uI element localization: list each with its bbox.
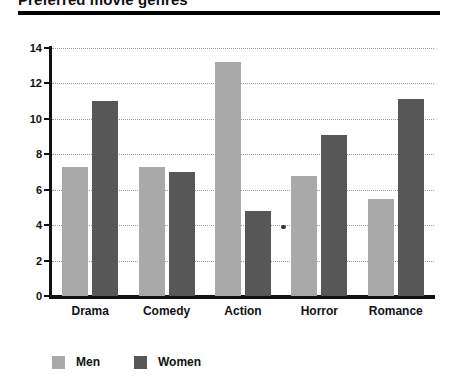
- bar-drama-men: [62, 167, 88, 296]
- plot-area: [52, 48, 434, 296]
- legend-swatch-women: [134, 356, 147, 369]
- bar-group-comedy: [139, 48, 195, 296]
- y-tick-label-6: 6: [16, 184, 42, 196]
- legend-label-men: Men: [76, 355, 100, 369]
- bar-group-horror: [291, 48, 347, 296]
- y-axis-labels: 02468101214: [8, 0, 42, 381]
- x-label-comedy: Comedy: [128, 304, 204, 318]
- chart-legend: MenWomen: [52, 352, 235, 372]
- x-label-action: Action: [205, 304, 281, 318]
- x-label-romance: Romance: [358, 304, 434, 318]
- bar-group-drama: [62, 48, 118, 296]
- y-tick-label-4: 4: [16, 219, 42, 231]
- x-axis-labels: DramaComedyActionHorrorRomance: [52, 304, 434, 324]
- y-tick-label-2: 2: [16, 255, 42, 267]
- y-tick-label-10: 10: [16, 113, 42, 125]
- x-label-horror: Horror: [281, 304, 357, 318]
- bar-romance-women: [398, 99, 424, 296]
- bar-horror-women: [321, 135, 347, 296]
- bar-comedy-women: [169, 172, 195, 296]
- scan-artifact-speck: [281, 225, 286, 229]
- bar-drama-women: [92, 101, 118, 296]
- y-tick-label-12: 12: [16, 77, 42, 89]
- y-tick-label-0: 0: [16, 290, 42, 302]
- bar-romance-men: [368, 199, 394, 296]
- bar-group-romance: [368, 48, 424, 296]
- y-tick-label-14: 14: [16, 42, 42, 54]
- legend-item-women: Women: [134, 355, 201, 369]
- title-divider: [18, 11, 440, 15]
- bar-action-women: [245, 211, 271, 296]
- x-label-drama: Drama: [52, 304, 128, 318]
- legend-swatch-men: [52, 356, 65, 369]
- bar-action-men: [215, 62, 241, 296]
- bar-comedy-men: [139, 167, 165, 296]
- legend-item-men: Men: [52, 355, 100, 369]
- bar-horror-men: [291, 176, 317, 296]
- bar-group-action: [215, 48, 271, 296]
- chart-title: Preferred movie genres: [18, 0, 438, 9]
- legend-label-women: Women: [158, 355, 201, 369]
- y-tick-label-8: 8: [16, 148, 42, 160]
